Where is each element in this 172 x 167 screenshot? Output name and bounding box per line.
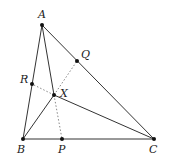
segment-cx <box>54 95 154 139</box>
segment-xp <box>54 95 62 139</box>
point-c <box>152 137 156 141</box>
segment-bx <box>23 95 54 139</box>
dotted-perpendiculars <box>32 61 77 139</box>
point-p <box>60 137 64 141</box>
point-a <box>40 23 44 27</box>
triangle-diagram: A B C P Q R X <box>0 0 172 167</box>
segment-xr <box>32 84 54 95</box>
label-q: Q <box>81 48 90 61</box>
point-b <box>21 137 25 141</box>
label-p: P <box>57 143 66 156</box>
point-q <box>75 59 79 63</box>
point-x <box>52 93 56 97</box>
point-r <box>30 82 34 86</box>
label-x: X <box>59 87 69 100</box>
triangle-sides <box>23 25 154 139</box>
side-ca <box>42 25 154 139</box>
points <box>21 23 156 141</box>
labels: A B C P Q R X <box>16 8 158 156</box>
label-a: A <box>37 8 46 21</box>
label-b: B <box>16 143 25 156</box>
label-r: R <box>19 73 28 86</box>
label-c: C <box>149 143 158 156</box>
